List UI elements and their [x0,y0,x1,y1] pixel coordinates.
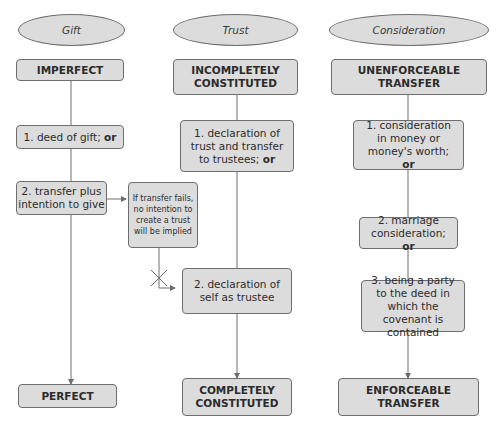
gift-step-2-label: 2. transfer plus intention to give [17,185,106,211]
gift-step-2: 2. transfer plus intention to give [16,181,107,215]
diagram-canvas: Gift IMPERFECT 1. deed of gift; or 2. tr… [0,0,500,424]
gift-start-imperfect: IMPERFECT [16,59,124,81]
trust-start-label: INCOMPLETELY CONSTITUTED [174,64,297,90]
trust-start-incompletely-constituted: INCOMPLETELY CONSTITUTED [173,59,298,95]
consideration-step-1-label: 1. consideration in money or money's wor… [360,119,457,171]
consideration-end-enforceable-transfer: ENFORCEABLE TRANSFER [338,378,479,416]
trust-end-completely-constituted: COMPLETELY CONSTITUTED [182,378,292,416]
consideration-column-title: Consideration [329,14,489,46]
trust-end-label: COMPLETELY CONSTITUTED [183,384,291,410]
gift-step-1: 1. deed of gift; or [16,125,124,149]
consideration-step-2: 2. marriage consideration; or [359,217,458,249]
gift-step-1-label: 1. deed of gift; or [24,131,117,144]
gift-start-label: IMPERFECT [37,64,104,77]
consideration-title-text: Consideration [373,24,446,36]
trust-step-1: 1. declaration of trust and transfer to … [180,120,294,172]
trust-step-2: 2. declaration of self as trustee [182,268,292,314]
gift-end-label: PERFECT [41,390,93,403]
consideration-step-2-label: 2. marriage consideration; or [364,214,453,253]
consideration-start-label: UNENFORCEABLE TRANSFER [332,64,486,90]
consideration-step-3: 3. being a party to the deed in which th… [361,280,465,332]
consideration-start-unenforceable-transfer: UNENFORCEABLE TRANSFER [331,59,487,95]
gift-title-text: Gift [62,24,81,36]
side-note-box: If transfer fails, no intention to creat… [128,182,198,248]
consideration-end-label: ENFORCEABLE TRANSFER [339,384,478,410]
trust-column-title: Trust [173,14,298,46]
trust-step-1-label: 1. declaration of trust and transfer to … [185,127,289,166]
gift-column-title: Gift [18,14,125,46]
consideration-step-3-label: 3. being a party to the deed in which th… [365,274,461,339]
trust-step-2-label: 2. declaration of self as trustee [187,278,287,304]
gift-end-perfect: PERFECT [18,384,117,408]
trust-title-text: Trust [222,24,248,36]
side-note-text: If transfer fails, no intention to creat… [132,193,194,237]
consideration-step-1: 1. consideration in money or money's wor… [353,120,464,170]
